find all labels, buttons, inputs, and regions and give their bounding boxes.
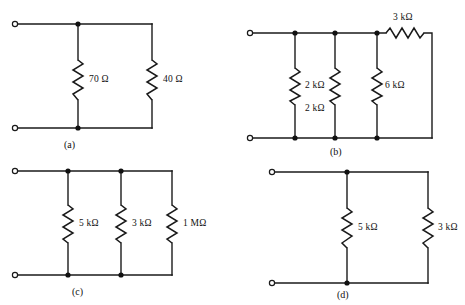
circuit-a-resistor-40ohm-symbol	[147, 60, 157, 100]
circuit-d-resistor-3kohm-label: 3 kΩ	[438, 222, 458, 232]
circuit-d-terminal-top	[269, 169, 274, 174]
circuit-a-resistor-70ohm-symbol	[73, 60, 83, 100]
circuit-a-resistor-40ohm-label: 40 Ω	[163, 74, 183, 84]
circuit-b-terminal-bottom	[247, 135, 252, 140]
circuit-c-node-top-2	[118, 168, 123, 173]
circuit-c-node-top-1	[65, 168, 70, 173]
circuit-b-resistor-2kohm-second-symbol	[330, 68, 340, 105]
circuit-a-terminal-bottom	[12, 125, 17, 130]
circuit-c-resistor-3kohm-label: 3 kΩ	[132, 218, 152, 228]
circuit-schematic-canvas	[0, 0, 465, 305]
circuit-b-node-bottom-1	[292, 135, 297, 140]
circuit-d-caption: (d)	[337, 289, 349, 300]
circuit-a-caption: (a)	[64, 139, 75, 150]
circuit-c-resistor-5kohm-label: 5 kΩ	[79, 218, 99, 228]
circuit-d-resistor-3kohm-symbol	[423, 208, 433, 248]
circuit-b-resistor-6kohm-label: 6 kΩ	[385, 80, 405, 90]
circuit-b-node-bottom-3	[374, 135, 379, 140]
circuit-c-terminal-bottom	[12, 272, 17, 277]
circuit-b-resistor-2kohm-second-label: 2 kΩ	[305, 103, 325, 113]
circuit-b-node-bottom-2	[332, 135, 337, 140]
circuit-d-resistor-5kohm-symbol	[342, 208, 352, 248]
circuit-b-node-top-3	[374, 30, 379, 35]
circuit-a-terminal-top	[12, 21, 17, 26]
circuit-c-caption: (c)	[72, 286, 83, 297]
circuit-a-group	[12, 21, 157, 130]
circuit-d-group	[269, 169, 433, 285]
circuit-b-resistor-2kohm-first-label: 2 kΩ	[305, 80, 325, 90]
circuit-b-right-return-wire	[424, 33, 432, 138]
circuit-c-node-bottom-2	[118, 272, 123, 277]
circuit-d-resistor-5kohm-label: 5 kΩ	[358, 222, 378, 232]
circuit-b-node-top-2	[332, 30, 337, 35]
circuit-d-node-top	[344, 169, 349, 174]
circuit-b-resistor-3kohm-label: 3 kΩ	[393, 12, 413, 22]
circuit-c-resistor-1Mohm-symbol	[167, 205, 177, 243]
circuit-b-node-top-1	[292, 30, 297, 35]
circuit-b-terminal-top	[247, 30, 252, 35]
circuit-d-node-bottom	[344, 280, 349, 285]
circuit-a-node-bottom	[75, 125, 80, 130]
circuit-b-resistor-2kohm-first-symbol	[290, 68, 300, 105]
circuit-c-node-bottom-1	[65, 272, 70, 277]
circuit-c-terminal-top	[12, 168, 17, 173]
circuit-b-caption: (b)	[330, 146, 342, 157]
circuit-c-resistor-3kohm-symbol	[116, 205, 126, 243]
circuit-c-resistor-1Mohm-label: 1 MΩ	[183, 218, 206, 228]
circuit-b-resistor-6kohm-symbol	[372, 68, 382, 105]
circuit-figure: 70 Ω 40 Ω (a) 2 kΩ 2 kΩ 6 kΩ 3 kΩ (b) 5 …	[0, 0, 465, 305]
circuit-a-node-top	[75, 21, 80, 26]
circuit-d-terminal-bottom	[269, 280, 274, 285]
circuit-c-resistor-5kohm-symbol	[63, 205, 73, 243]
circuit-a-resistor-70ohm-label: 70 Ω	[89, 74, 109, 84]
circuit-b-resistor-3kohm-symbol	[386, 28, 424, 38]
